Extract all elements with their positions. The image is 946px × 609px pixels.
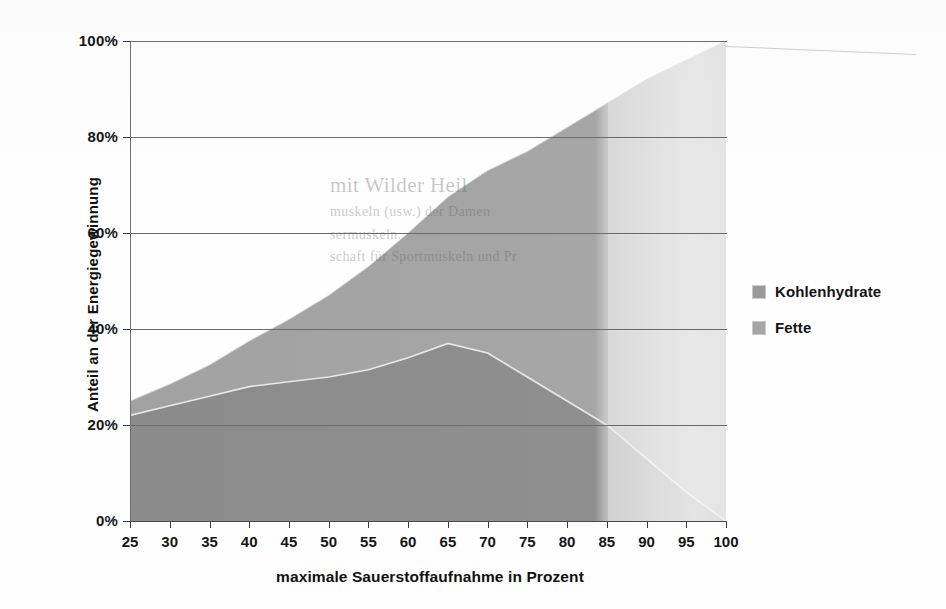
gridline	[130, 329, 727, 330]
x-axis-tick-label: 40	[241, 533, 258, 550]
legend-swatch-icon	[752, 321, 766, 335]
y-axis-tick-label: 0%	[40, 512, 118, 529]
x-axis-tick	[289, 521, 290, 528]
x-axis-tick	[686, 521, 687, 528]
x-axis-tick-label: 95	[678, 533, 695, 550]
y-axis-tick	[123, 137, 130, 138]
y-axis-title-wrap: Anteil an der Energiegewinnung	[42, 50, 66, 470]
legend-label-fette: Fette	[775, 319, 811, 336]
y-axis-tick-label: 100%	[40, 32, 118, 49]
x-axis-tick-label: 65	[440, 533, 457, 550]
x-axis-tick-label: 100	[713, 533, 738, 550]
y-axis-title: Anteil an der Energiegewinnung	[84, 85, 101, 505]
gridline	[130, 233, 727, 234]
legend-item-fette[interactable]: Fette	[752, 319, 881, 336]
x-axis-tick	[408, 521, 409, 528]
x-axis-tick	[607, 521, 608, 528]
x-axis-tick	[647, 521, 648, 528]
x-axis-tick-label: 35	[201, 533, 218, 550]
x-axis-tick	[210, 521, 211, 528]
x-axis-tick	[130, 521, 131, 528]
chart-legend: Kohlenhydrate Fette	[752, 283, 881, 355]
chart-page: mit Wilder Heil muskeln (usw.) der Damen…	[0, 0, 946, 609]
legend-label-kohlenhydrate: Kohlenhydrate	[775, 283, 881, 300]
x-axis-tick	[527, 521, 528, 528]
legend-item-kohlenhydrate[interactable]: Kohlenhydrate	[752, 283, 881, 300]
x-axis-tick-label: 85	[598, 533, 615, 550]
x-axis-tick-label: 60	[400, 533, 417, 550]
x-axis-tick	[567, 521, 568, 528]
x-axis-tick-label: 80	[559, 533, 576, 550]
x-axis-tick	[488, 521, 489, 528]
x-axis-tick-label: 75	[519, 533, 536, 550]
x-axis-tick	[368, 521, 369, 528]
y-axis-tick	[123, 521, 130, 522]
y-axis-tick	[123, 233, 130, 234]
x-axis-tick	[249, 521, 250, 528]
scan-speck	[868, 290, 871, 293]
legend-swatch-icon	[752, 285, 766, 299]
y-axis-line	[130, 41, 131, 522]
x-axis-tick-label: 30	[161, 533, 178, 550]
x-axis-tick	[329, 521, 330, 528]
gridline	[130, 137, 727, 138]
y-axis-tick	[123, 425, 130, 426]
x-axis-tick-label: 90	[638, 533, 655, 550]
gridline	[130, 41, 727, 42]
x-axis-tick-label: 25	[122, 533, 139, 550]
y-axis-tick	[123, 41, 130, 42]
scan-stray-line	[726, 46, 916, 55]
x-axis-tick	[170, 521, 171, 528]
x-axis-title: maximale Sauerstoffaufnahme in Prozent	[130, 568, 730, 586]
y-axis-tick	[123, 329, 130, 330]
stacked-area-svg	[130, 41, 726, 521]
x-axis-tick-label: 50	[320, 533, 337, 550]
plot-area	[130, 41, 726, 521]
x-axis-tick-label: 70	[479, 533, 496, 550]
x-axis-tick-label: 55	[360, 533, 377, 550]
x-axis-tick-label: 45	[281, 533, 298, 550]
gridline	[130, 425, 727, 426]
x-axis-line	[130, 521, 727, 522]
x-axis-tick	[448, 521, 449, 528]
x-axis-tick	[726, 521, 727, 528]
